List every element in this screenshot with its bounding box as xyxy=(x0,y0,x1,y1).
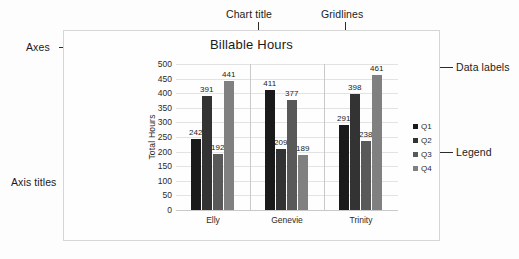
bar-rect[interactable] xyxy=(298,155,308,210)
bar-rect[interactable] xyxy=(287,100,297,210)
annotation-axis-titles: Axis titles xyxy=(11,176,56,188)
legend-label: Q1 xyxy=(421,122,432,131)
legend-item-q3[interactable]: Q3 xyxy=(413,147,432,161)
yaxis-title: Total Hours xyxy=(147,114,157,159)
yaxis-tick-label: 150 xyxy=(158,161,172,171)
bar-q1-elly[interactable]: 242 xyxy=(191,64,201,210)
legend-label: Q4 xyxy=(421,164,432,173)
legend-item-q4[interactable]: Q4 xyxy=(413,161,432,175)
data-label: 441 xyxy=(222,70,235,79)
plot-area: Total Hours 5004504003503002502001501005… xyxy=(176,64,398,210)
screenshot-root: Chart title Gridlines Axes Axis titles E… xyxy=(0,0,519,259)
bar-q3-trinity[interactable]: 238 xyxy=(361,64,371,210)
bar-rect[interactable] xyxy=(339,125,349,210)
chart-title: Billable Hours xyxy=(64,37,439,52)
data-label: 377 xyxy=(285,89,298,98)
xaxis-category-label: Elly xyxy=(176,215,250,225)
annotation-legend: Legend xyxy=(456,146,492,158)
bar-rect[interactable] xyxy=(191,139,201,210)
bar-group: 411209377189Genevie xyxy=(250,64,324,210)
yaxis-tick-label: 200 xyxy=(158,147,172,157)
chart-container: Billable Hours Total Hours 5004504003503… xyxy=(63,30,440,241)
yaxis-tick-label: 50 xyxy=(163,190,172,200)
yaxis-tick-label: 450 xyxy=(158,74,172,84)
data-label: 411 xyxy=(263,79,276,88)
bar-rect[interactable] xyxy=(361,141,371,210)
bar-rect[interactable] xyxy=(224,81,234,210)
bar-q2-genevie[interactable]: 209 xyxy=(276,64,286,210)
bar-q1-trinity[interactable]: 291 xyxy=(339,64,349,210)
data-label: 238 xyxy=(359,130,372,139)
yaxis-tick-label: 300 xyxy=(158,117,172,127)
legend-item-q2[interactable]: Q2 xyxy=(413,133,432,147)
data-label: 192 xyxy=(211,143,224,152)
xaxis-category-label: Genevie xyxy=(250,215,324,225)
bar-group: 242391192441Elly xyxy=(176,64,250,210)
yaxis-tick-label: 350 xyxy=(158,103,172,113)
legend-label: Q3 xyxy=(421,150,432,159)
data-label: 291 xyxy=(337,114,350,123)
bar-q1-genevie[interactable]: 411 xyxy=(265,64,275,210)
legend-label: Q2 xyxy=(421,136,432,145)
legend-swatch-icon xyxy=(413,166,418,171)
bar-q3-genevie[interactable]: 377 xyxy=(287,64,297,210)
bar-rect[interactable] xyxy=(276,149,286,210)
legend-item-q1[interactable]: Q1 xyxy=(413,119,432,133)
gridline xyxy=(176,210,398,211)
legend-swatch-icon xyxy=(413,138,418,143)
annotation-axes: Axes xyxy=(26,41,50,53)
bar-q3-elly[interactable]: 192 xyxy=(213,64,223,210)
category-separator xyxy=(324,64,325,210)
bar-rect[interactable] xyxy=(265,90,275,210)
legend-swatch-icon xyxy=(413,124,418,129)
bar-q4-trinity[interactable]: 461 xyxy=(372,64,382,210)
bar-rect[interactable] xyxy=(213,154,223,210)
bar-rect[interactable] xyxy=(202,96,212,210)
bar-group: 291398238461Trinity xyxy=(324,64,398,210)
yaxis-tick-label: 250 xyxy=(158,132,172,142)
data-label: 391 xyxy=(200,85,213,94)
yaxis-tick-label: 400 xyxy=(158,88,172,98)
legend[interactable]: Q1Q2Q3Q4 xyxy=(413,119,432,175)
annotation-chart-title: Chart title xyxy=(226,8,272,20)
data-label: 242 xyxy=(189,128,202,137)
data-label: 189 xyxy=(296,144,309,153)
yaxis-tick-label: 500 xyxy=(158,59,172,69)
data-label: 398 xyxy=(348,83,361,92)
bar-q4-genevie[interactable]: 189 xyxy=(298,64,308,210)
data-label: 209 xyxy=(274,138,287,147)
legend-swatch-icon xyxy=(413,152,418,157)
bar-rect[interactable] xyxy=(372,75,382,210)
annotation-gridlines: Gridlines xyxy=(321,8,363,20)
annotation-data-labels: Data labels xyxy=(456,61,510,73)
bar-q2-elly[interactable]: 391 xyxy=(202,64,212,210)
data-label: 461 xyxy=(370,64,383,73)
bar-q4-elly[interactable]: 441 xyxy=(224,64,234,210)
xaxis-category-label: Trinity xyxy=(324,215,398,225)
bar-rect[interactable] xyxy=(350,94,360,210)
category-separator xyxy=(250,64,251,210)
bar-q2-trinity[interactable]: 398 xyxy=(350,64,360,210)
yaxis-tick-label: 0 xyxy=(167,205,172,215)
yaxis-tick-label: 100 xyxy=(158,176,172,186)
